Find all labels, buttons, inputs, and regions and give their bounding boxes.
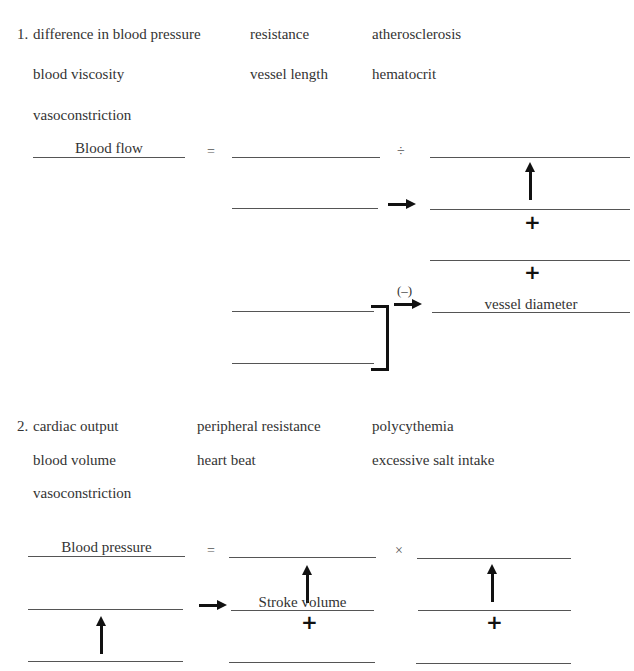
equals-sign: = bbox=[207, 145, 215, 159]
negative-effect-label: (–) bbox=[397, 283, 412, 299]
up-arrow-icon bbox=[491, 572, 494, 602]
term: atherosclerosis bbox=[372, 25, 461, 43]
vessel-diameter-label: vessel diameter bbox=[432, 296, 630, 312]
term: vasoconstriction bbox=[33, 484, 131, 502]
term: vessel length bbox=[250, 65, 328, 83]
answer-blank[interactable] bbox=[232, 311, 374, 312]
answer-blank[interactable] bbox=[417, 558, 571, 559]
up-arrow-icon bbox=[529, 170, 532, 200]
answer-blank[interactable] bbox=[232, 208, 378, 209]
term: cardiac output bbox=[33, 417, 118, 435]
divide-sign: ÷ bbox=[397, 145, 405, 159]
equals-sign: = bbox=[207, 544, 215, 558]
question-number-1: 1. bbox=[17, 25, 28, 43]
blank-blood-pressure bbox=[28, 556, 185, 557]
plus-icon: + bbox=[486, 612, 503, 632]
question-number-2: 2. bbox=[17, 417, 28, 435]
term: excessive salt intake bbox=[372, 451, 494, 469]
bracket-icon bbox=[371, 305, 389, 371]
right-arrow-icon bbox=[199, 604, 219, 607]
answer-blank[interactable] bbox=[28, 661, 183, 662]
term: vasoconstriction bbox=[33, 106, 131, 124]
plus-icon: + bbox=[301, 612, 318, 632]
right-arrow-icon bbox=[394, 303, 414, 306]
blood-flow-label: Blood flow bbox=[33, 140, 185, 156]
term: heart beat bbox=[197, 451, 256, 469]
up-arrow-icon bbox=[100, 624, 103, 654]
multiply-sign: × bbox=[395, 544, 403, 558]
stroke-volume-label: Stroke volume bbox=[231, 594, 374, 610]
answer-blank[interactable] bbox=[229, 557, 376, 558]
term: polycythemia bbox=[372, 417, 454, 435]
blank-vessel-diameter bbox=[432, 312, 630, 313]
answer-blank[interactable] bbox=[430, 157, 630, 158]
term: blood viscosity bbox=[33, 65, 124, 83]
term: difference in blood pressure bbox=[33, 25, 201, 43]
answer-blank[interactable] bbox=[28, 609, 183, 610]
blood-pressure-label: Blood pressure bbox=[28, 539, 185, 555]
answer-blank[interactable] bbox=[416, 663, 571, 664]
term: hematocrit bbox=[372, 65, 436, 83]
term: resistance bbox=[250, 25, 309, 43]
term: peripheral resistance bbox=[197, 417, 321, 435]
plus-icon: + bbox=[524, 262, 541, 282]
blank-blood-flow bbox=[33, 157, 185, 158]
answer-blank[interactable] bbox=[232, 157, 380, 158]
right-arrow-icon bbox=[388, 203, 408, 206]
plus-icon: + bbox=[524, 212, 541, 232]
answer-blank[interactable] bbox=[232, 363, 374, 364]
term: blood volume bbox=[33, 451, 116, 469]
answer-blank[interactable] bbox=[229, 662, 375, 663]
